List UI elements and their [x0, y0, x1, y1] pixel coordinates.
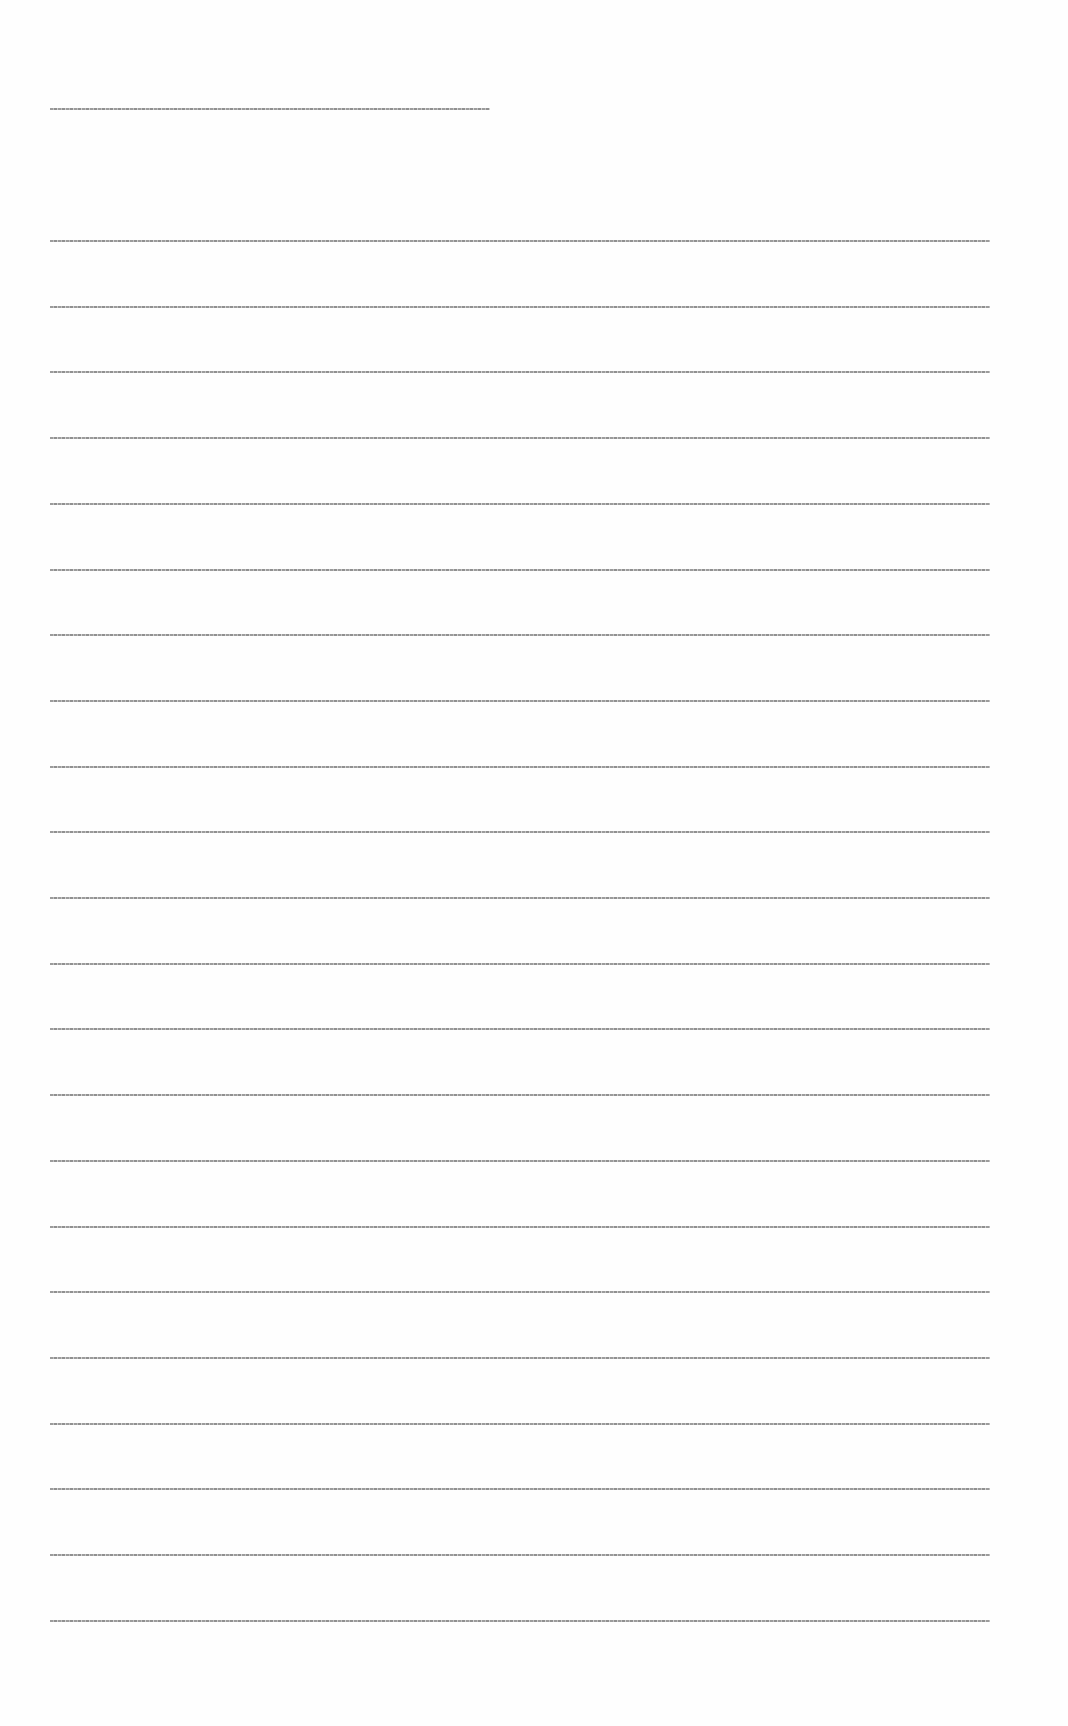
document-body-line	[50, 634, 990, 636]
document-body-line-text	[50, 240, 51, 241]
document-body-line-text	[50, 1226, 51, 1227]
document-body-line-text	[50, 306, 51, 307]
document-body-line	[50, 1423, 990, 1425]
document-body-line-text	[50, 1028, 51, 1029]
document-body-line	[50, 1028, 990, 1030]
document-body-line-text	[50, 831, 51, 832]
document-body-line-text	[50, 1160, 51, 1161]
document-body-line	[50, 569, 990, 571]
document-body-line	[50, 963, 990, 965]
document-body-line-text	[50, 634, 51, 635]
document-body-line-text	[50, 1094, 51, 1095]
document-body-line	[50, 1094, 990, 1096]
document-body-line	[50, 1357, 990, 1359]
document-body-line-text	[50, 766, 51, 767]
document-body-line	[50, 306, 990, 308]
document-body-line-text	[50, 1488, 51, 1489]
document-body-line	[50, 700, 990, 702]
document-body-line-text	[50, 1423, 51, 1424]
document-body-line-text	[50, 1620, 51, 1621]
document-body-line	[50, 1226, 990, 1228]
document-body-line-text	[50, 1357, 51, 1358]
document-header-line	[50, 108, 490, 110]
document-body-line	[50, 503, 990, 505]
document-body-line	[50, 1488, 990, 1490]
document-body-line	[50, 1554, 990, 1556]
document-body-line-text	[50, 371, 51, 372]
document-body-line-text	[50, 700, 51, 701]
document-body-line-text	[50, 503, 51, 504]
document-body-line	[50, 1160, 990, 1162]
document-body-line	[50, 1291, 990, 1293]
document-body-line-text	[50, 963, 51, 964]
document-body-line	[50, 1620, 990, 1622]
document-body-line	[50, 437, 990, 439]
document-body-line-text	[50, 1291, 51, 1292]
document-body-line	[50, 766, 990, 768]
document-body-line-text	[50, 1554, 51, 1555]
document-page	[0, 0, 1068, 1726]
document-body-line	[50, 897, 990, 899]
document-body-line	[50, 371, 990, 373]
document-body-line	[50, 240, 990, 242]
document-body-line-text	[50, 569, 51, 570]
document-header-text	[50, 108, 51, 109]
document-body-line	[50, 831, 990, 833]
document-body-line-text	[50, 897, 51, 898]
document-body-line-text	[50, 437, 51, 438]
